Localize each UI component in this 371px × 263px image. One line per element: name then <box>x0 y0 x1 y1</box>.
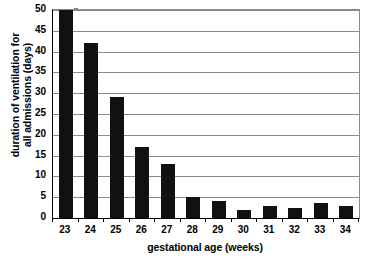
x-axis-tick-label: 29 <box>205 224 231 238</box>
x-axis-tick-label: 28 <box>180 224 206 238</box>
x-axis-tick-mark <box>205 218 206 222</box>
x-axis-tick-label: 33 <box>307 224 333 238</box>
bar <box>135 147 149 218</box>
bar-slot <box>104 10 130 218</box>
y-axis-tick-labels: 05101520253035404550 <box>26 0 48 222</box>
bar <box>59 10 73 218</box>
x-axis-tick-label: 24 <box>78 224 104 238</box>
y-axis-tick-label: 40 <box>35 46 46 56</box>
bar <box>186 197 200 218</box>
bar <box>161 164 175 218</box>
bar-slot <box>206 10 232 218</box>
bar-slot <box>232 10 258 218</box>
y-axis-tick-label: 50 <box>35 4 46 14</box>
x-axis-tick-label: 30 <box>231 224 257 238</box>
y-axis-title-line-1: duration of ventilation for <box>9 33 22 157</box>
y-axis-tick-label: 30 <box>35 87 46 97</box>
bar-slot <box>155 10 181 218</box>
x-axis-tick-label: 26 <box>129 224 155 238</box>
x-axis-tick-mark <box>154 218 155 222</box>
bar <box>84 43 98 218</box>
x-axis-tick-mark <box>52 218 53 222</box>
y-axis-tick-label: 5 <box>40 191 46 201</box>
x-axis-tick-label: 31 <box>256 224 282 238</box>
x-axis-tick-mark <box>333 218 334 222</box>
y-axis-tick-label: 25 <box>35 108 46 118</box>
y-axis-tick-label: 0 <box>40 212 46 222</box>
bar <box>288 208 302 218</box>
bar-slot <box>283 10 309 218</box>
x-axis-tick-marks <box>52 218 360 223</box>
x-axis-tick-mark <box>282 218 283 222</box>
bar <box>339 206 353 218</box>
x-axis-tick-mark <box>358 218 359 222</box>
bar <box>237 210 251 218</box>
x-axis-tick-label: 32 <box>282 224 308 238</box>
bars-layer <box>53 10 359 218</box>
x-axis-title: gestational age (weeks) <box>52 241 358 253</box>
plot-area <box>52 9 360 219</box>
bar <box>314 203 328 218</box>
bar-slot <box>257 10 283 218</box>
y-axis-tick-label: 35 <box>35 66 46 76</box>
x-axis-tick-label: 34 <box>333 224 359 238</box>
bar-slot <box>181 10 207 218</box>
x-axis-tick-mark <box>78 218 79 222</box>
x-axis-tick-mark <box>256 218 257 222</box>
bar-slot <box>53 10 79 218</box>
x-axis-tick-label: 27 <box>154 224 180 238</box>
bar <box>110 97 124 218</box>
y-axis-tick-label: 20 <box>35 129 46 139</box>
y-axis-tick-label: 45 <box>35 25 46 35</box>
bar-chart-figure: duration of ventilation for all admissio… <box>0 0 371 263</box>
bar-slot <box>79 10 105 218</box>
bar-slot <box>308 10 334 218</box>
x-axis-tick-mark <box>129 218 130 222</box>
x-axis-tick-label: 23 <box>52 224 78 238</box>
x-axis-tick-mark <box>103 218 104 222</box>
bar <box>212 201 226 218</box>
bar-slot <box>130 10 156 218</box>
x-axis-tick-mark <box>180 218 181 222</box>
y-axis-tick-label: 10 <box>35 170 46 180</box>
x-axis-tick-label: 25 <box>103 224 129 238</box>
y-axis-tick-label: 15 <box>35 150 46 160</box>
x-axis-tick-mark <box>307 218 308 222</box>
x-axis-tick-labels: 232425262728293031323334 <box>52 224 358 238</box>
x-axis-tick-mark <box>231 218 232 222</box>
bar <box>263 206 277 218</box>
bar-slot <box>334 10 360 218</box>
